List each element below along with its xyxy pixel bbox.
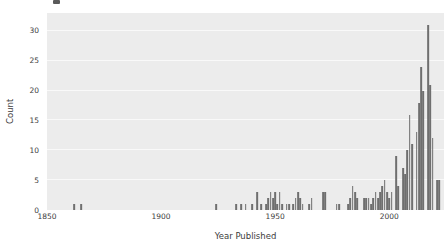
histogram-bar [74, 204, 76, 210]
histogram-bar [338, 204, 340, 210]
y-axis-label: Count [5, 13, 15, 210]
histogram-bar [236, 204, 238, 210]
histogram-bar [240, 204, 242, 210]
y-gridline [47, 119, 444, 120]
x-tick-label: 2000 [380, 213, 399, 221]
histogram-bar [356, 198, 358, 210]
histogram-figure: 051015202530 1850190019502000 Count Year… [0, 0, 444, 251]
histogram-bar [80, 204, 82, 210]
histogram-bar [423, 91, 425, 210]
clipped-text-fragment [53, 0, 60, 4]
histogram-bar [325, 192, 327, 210]
histogram-bar [245, 204, 247, 210]
y-tick-label: 15 [29, 117, 39, 125]
histogram-bar [261, 204, 263, 210]
x-axis-label: Year Published [47, 231, 444, 241]
y-tick-label: 10 [29, 147, 39, 155]
y-tick-label: 25 [29, 57, 39, 65]
x-tick-label: 1950 [266, 213, 285, 221]
histogram-bar [439, 180, 441, 210]
histogram-bar [432, 138, 434, 210]
y-tick-label: 30 [29, 27, 39, 35]
histogram-bar [256, 192, 258, 210]
histogram-bar [252, 204, 254, 210]
y-tick-label: 5 [34, 176, 39, 184]
histogram-bar [311, 198, 313, 210]
histogram-bar [411, 144, 413, 210]
histogram-bar [215, 204, 217, 210]
histogram-bar [302, 204, 304, 210]
histogram-bar [391, 192, 393, 210]
histogram-bar [281, 204, 283, 210]
y-gridline [47, 60, 444, 61]
y-gridline [47, 90, 444, 91]
x-axis-ticks: 1850190019502000 [47, 213, 444, 223]
plot-area [47, 13, 444, 210]
x-tick-label: 1850 [37, 213, 56, 221]
histogram-bar [398, 186, 400, 210]
histogram-bar [288, 204, 290, 210]
x-tick-label: 1900 [152, 213, 171, 221]
y-gridline [47, 30, 444, 31]
y-tick-label: 20 [29, 87, 39, 95]
y-gridline [47, 149, 444, 150]
